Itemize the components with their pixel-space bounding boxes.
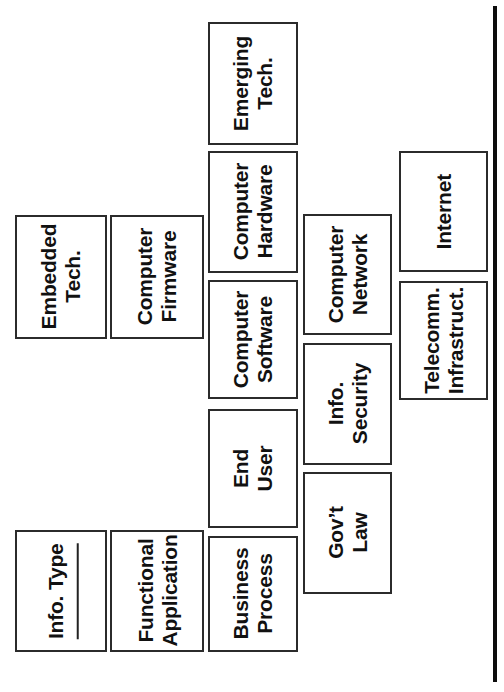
node-label-line: Info. [324,363,348,444]
node-label-line: Computer [324,226,348,324]
node-label-info-security: Info.Security [324,363,371,444]
node-label-line: Network [348,226,372,324]
node-label-line: Tech. [253,36,277,131]
node-label-emerging-tech: EmergingTech. [229,36,276,131]
node-label-line: Firmware [157,228,181,326]
node-end-user[interactable]: EndUser [208,409,298,528]
node-label-line: Internet [432,174,456,249]
node-label-computer-software: ComputerSoftware [229,291,276,389]
node-internet[interactable]: Internet [399,151,488,272]
node-computer-software[interactable]: ComputerSoftware [208,280,298,399]
node-embedded-tech[interactable]: EmbeddedTech. [15,215,107,339]
node-label-computer-network: ComputerNetwork [324,226,371,324]
node-label-line: Computer [133,228,157,326]
node-label-internet: Internet [432,174,456,249]
node-computer-network[interactable]: ComputerNetwork [303,214,392,335]
node-label-line: Telecomm. [420,287,444,394]
node-label-line: Security [348,363,372,444]
node-label-computer-firmware: ComputerFirmware [133,228,180,326]
diagram-canvas: Info. TypeFunctionalApplicationEmbeddedT… [0,0,504,692]
node-label-line: Tech. [61,224,85,330]
node-label-line: Emerging [229,36,253,131]
node-emerging-tech[interactable]: EmergingTech. [208,22,298,145]
node-label-line: Process [253,548,277,640]
node-label-info-type: Info. Type [44,543,79,639]
node-label-line: User [253,446,277,492]
node-label-business-process: BusinessProcess [229,548,276,640]
node-label-line: End [229,446,253,492]
node-label-line: Gov’t [324,507,348,560]
node-business-process[interactable]: BusinessProcess [208,536,298,652]
node-functional-application[interactable]: FunctionalApplication [110,530,204,652]
node-label-line: Computer [229,291,253,389]
node-info-security[interactable]: Info.Security [303,343,392,465]
node-label-line: Hardware [253,163,277,261]
node-telecomm-infrastruct[interactable]: Telecomm.Infrastruct. [399,281,488,400]
node-label-line: Embedded [37,224,61,330]
node-label-line: Infrastruct. [444,287,468,394]
node-label-govt-law: Gov’tLaw [324,507,371,560]
node-label-line: Software [253,291,277,389]
node-label-end-user: EndUser [229,446,276,492]
node-label-embedded-tech: EmbeddedTech. [37,224,84,330]
node-computer-firmware[interactable]: ComputerFirmware [110,215,204,339]
node-label-line: Computer [229,163,253,261]
node-label-functional-application: FunctionalApplication [133,535,180,647]
node-label-line: Info. Type [44,543,68,639]
node-label-computer-hardware: ComputerHardware [229,163,276,261]
node-label-line: Functional [133,535,157,647]
node-computer-hardware[interactable]: ComputerHardware [208,151,298,273]
page-edge-rule [493,6,497,682]
node-govt-law[interactable]: Gov’tLaw [303,472,392,594]
fill-in-rule [76,543,78,639]
node-label-line: Application [157,535,181,647]
node-label-line: Law [347,507,371,560]
node-label-line: Business [229,548,253,640]
node-info-type[interactable]: Info. Type [15,530,107,652]
node-label-telecomm-infrastruct: Telecomm.Infrastruct. [420,287,467,394]
